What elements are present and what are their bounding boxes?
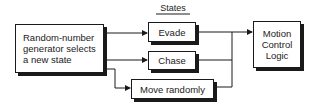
state-diagram: States Random-number generator selects a…: [0, 0, 315, 108]
states-title: States: [158, 3, 188, 13]
state-label-move-randomly: Move randomly: [140, 84, 205, 95]
motion-control-logic-box: Motion Control Logic: [253, 21, 301, 68]
state-box-chase: Chase: [148, 51, 196, 70]
arrow-to-move-randomly: [106, 69, 130, 88]
state-box-evade: Evade: [148, 22, 196, 42]
state-label-evade: Evade: [159, 27, 186, 38]
state-box-move-randomly: Move randomly: [131, 79, 214, 99]
random-number-generator-box: Random-number generator selects a new st…: [15, 24, 104, 73]
state-label-chase: Chase: [158, 55, 185, 66]
motion-control-logic-label: Motion Control Logic: [262, 28, 293, 61]
random-number-generator-label: Random-number generator selects a new st…: [23, 32, 96, 65]
